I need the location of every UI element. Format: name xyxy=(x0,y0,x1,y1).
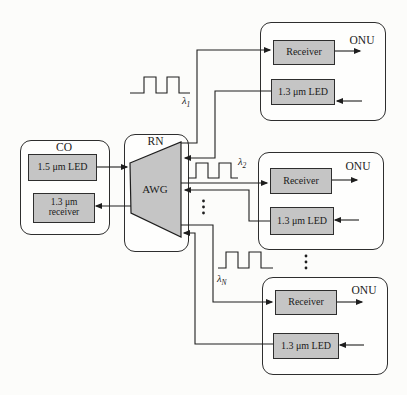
ellipsis-awg-outputs xyxy=(202,200,205,215)
awg-label: AWG xyxy=(134,184,176,195)
onu1-led-chip: 1.3 μm LED xyxy=(271,79,335,105)
wdm-pon-architecture-diagram: CO 1.5 μm LED 1.3 μm receiver RN AWG ONU… xyxy=(0,0,407,395)
onu1-receiver-chip: Receiver xyxy=(273,40,335,65)
co-receiver-line2: receiver xyxy=(49,208,80,218)
onu2-led-chip: 1.3 μm LED xyxy=(270,207,334,235)
onu3-led-chip: 1.3 μm LED xyxy=(273,333,339,359)
lambda2-squarewave xyxy=(188,163,238,178)
rn-title: RN xyxy=(124,136,187,148)
onu1-title: ONU xyxy=(344,35,380,47)
lambda2-label: λ2 xyxy=(238,157,246,170)
lambdaN-squarewave xyxy=(218,252,273,268)
wire-onu3-led-to-awg xyxy=(184,233,275,344)
co-title: CO xyxy=(20,142,108,154)
onu2-title: ONU xyxy=(340,161,376,173)
ellipsis-onu-list xyxy=(305,255,308,270)
onu3-title: ONU xyxy=(346,285,382,297)
wire-onu1-led-to-awg xyxy=(185,91,273,158)
wire-awg-to-onu1-receiver xyxy=(181,50,270,143)
onu3-receiver-chip: Receiver xyxy=(275,290,337,315)
co-receiver-chip: 1.3 μm receiver xyxy=(33,193,95,223)
lambdaN-label: λN xyxy=(217,274,227,287)
lambda1-squarewave xyxy=(130,77,190,93)
lambda1-label: λ1 xyxy=(182,96,190,109)
wire-onu2-led-to-awg xyxy=(185,190,270,221)
co-led-chip: 1.5 μm LED xyxy=(28,154,97,181)
onu2-receiver-chip: Receiver xyxy=(270,168,332,194)
